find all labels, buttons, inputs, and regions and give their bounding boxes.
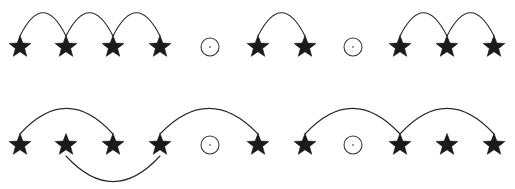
star-icon <box>55 36 77 57</box>
star-icon <box>294 36 316 57</box>
star-icon <box>9 36 31 57</box>
circle-center-dot-icon <box>209 46 211 48</box>
star-icon <box>294 134 316 155</box>
arc-connector <box>305 108 400 134</box>
arc-connector <box>258 13 305 36</box>
arc-connector <box>447 13 494 36</box>
symbol-layer <box>9 36 505 155</box>
star-icon <box>55 134 77 155</box>
circle-center-dot-icon <box>352 144 354 146</box>
star-icon <box>436 134 458 155</box>
diagram-canvas <box>0 0 515 189</box>
diagram-svg <box>0 0 515 189</box>
star-icon <box>247 134 269 155</box>
arc-connector <box>400 13 447 36</box>
star-icon <box>389 36 411 57</box>
star-icon <box>247 36 269 57</box>
arc-connector <box>20 108 113 134</box>
star-icon <box>149 36 171 57</box>
star-icon <box>102 36 124 57</box>
star-icon <box>149 134 171 155</box>
star-icon <box>483 134 505 155</box>
star-icon <box>9 134 31 155</box>
circle-center-dot-icon <box>209 144 211 146</box>
star-icon <box>102 134 124 155</box>
arc-connector <box>20 13 66 36</box>
star-icon <box>436 36 458 57</box>
circle-center-dot-icon <box>352 46 354 48</box>
arc-connector <box>400 108 494 134</box>
arc-connector <box>66 13 113 36</box>
arc-connector <box>160 108 258 134</box>
star-icon <box>483 36 505 57</box>
arc-connector <box>66 156 160 182</box>
arc-connector <box>113 13 160 36</box>
star-icon <box>389 134 411 155</box>
